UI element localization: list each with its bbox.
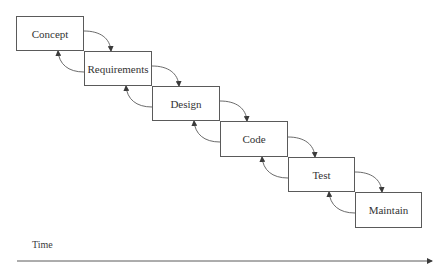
forward-arrow-concept-requirements xyxy=(84,31,111,51)
stage-label: Maintain xyxy=(369,204,409,216)
time-axis-label: Time xyxy=(32,239,53,250)
forward-arrow-design-code xyxy=(220,101,247,121)
stage-label: Design xyxy=(170,98,201,110)
stage-requirements: Requirements xyxy=(84,51,152,86)
stage-concept: Concept xyxy=(16,16,84,51)
forward-arrow-code-test xyxy=(288,137,315,157)
stage-label: Test xyxy=(312,169,330,181)
feedback-arrow-code-design xyxy=(194,121,220,142)
feedback-arrow-design-requirements xyxy=(126,86,152,107)
stage-maintain: Maintain xyxy=(355,192,422,228)
forward-arrow-test-maintain xyxy=(355,172,382,192)
stage-label: Concept xyxy=(32,28,69,40)
waterfall-diagram: Concept Requirements Design Code Test Ma… xyxy=(0,0,446,278)
stage-code: Code xyxy=(220,121,288,157)
feedback-arrow-test-code xyxy=(262,157,288,178)
stage-design: Design xyxy=(152,86,220,121)
forward-arrow-requirements-design xyxy=(152,66,179,86)
stage-label: Code xyxy=(242,133,265,145)
stage-label: Requirements xyxy=(87,63,148,75)
feedback-arrow-requirements-concept xyxy=(58,51,84,72)
feedback-arrow-maintain-test xyxy=(329,192,355,213)
stage-test: Test xyxy=(288,157,355,192)
